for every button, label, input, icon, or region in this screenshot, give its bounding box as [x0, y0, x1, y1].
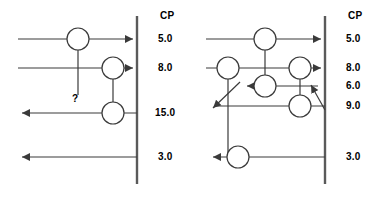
cp-value-8: 8.0: [158, 62, 173, 73]
cp-value-8: 8.0: [346, 62, 361, 73]
node-a[interactable]: [67, 28, 89, 50]
node-c[interactable]: [102, 102, 124, 124]
question-mark-annotation: ?: [72, 93, 78, 104]
left-diagram-canvas: [0, 0, 190, 200]
node-f[interactable]: [227, 146, 249, 168]
cp-value-6: 6.0: [346, 80, 361, 91]
cp-value-9: 9.0: [346, 100, 361, 111]
cp-axis-header: CP: [348, 10, 362, 21]
figure-root: CP 5.0 8.0 15.0 3.0 ?: [0, 0, 381, 200]
cp-value-5: 5.0: [346, 33, 361, 44]
right-circuit-diagram: CP 5.0 8.0 6.0 9.0 3.0: [190, 0, 381, 200]
node-b[interactable]: [102, 57, 124, 79]
cp-value-3: 3.0: [158, 151, 173, 162]
node-a[interactable]: [254, 28, 276, 50]
cp-value-3: 3.0: [346, 151, 361, 162]
cp-value-5: 5.0: [158, 33, 173, 44]
left-circuit-diagram: CP 5.0 8.0 15.0 3.0 ?: [0, 0, 190, 200]
node-d[interactable]: [254, 75, 276, 97]
node-b[interactable]: [217, 57, 239, 79]
cp-value-15: 15.0: [155, 107, 175, 118]
node-c[interactable]: [289, 57, 311, 79]
diagonal-left-crossing: [213, 82, 240, 108]
cp-axis-header: CP: [160, 10, 174, 21]
node-e[interactable]: [289, 95, 311, 117]
